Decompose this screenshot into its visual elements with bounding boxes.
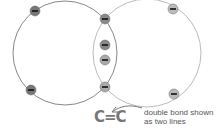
electron-icon <box>168 4 178 14</box>
electron-icon <box>100 40 110 50</box>
electron-icon <box>100 55 110 65</box>
electron-icon <box>100 14 110 24</box>
annotation-line-2: as two lines <box>144 117 213 126</box>
annotation-label: double bond shown as two lines <box>144 108 213 126</box>
electron-icon <box>169 89 179 99</box>
covalent-bond-diagram: C=C double bond shown as two lines <box>0 0 221 135</box>
double-bond-formula: C=C <box>94 108 126 126</box>
annotation-line-1: double bond shown <box>144 108 213 117</box>
electrons-group <box>26 4 179 99</box>
electron-icon <box>30 6 40 16</box>
electron-icon <box>26 85 36 95</box>
electron-icon <box>100 82 110 92</box>
